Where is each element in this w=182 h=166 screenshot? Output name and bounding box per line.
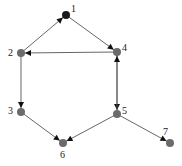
node-4 (113, 48, 121, 56)
node-label-1: 1 (71, 3, 76, 14)
node-2 (17, 49, 25, 57)
edge-4-2 (21, 52, 117, 53)
edges-layer (18, 15, 170, 143)
arrowhead-icon (107, 44, 114, 50)
node-label-2: 2 (8, 47, 13, 58)
node-3 (17, 108, 25, 116)
node-5 (113, 110, 121, 118)
node-label-4: 4 (122, 42, 127, 53)
node-label-7: 7 (163, 126, 168, 137)
node-label-6: 6 (60, 149, 65, 160)
labels-layer: 1234567 (8, 3, 168, 160)
node-6 (59, 139, 67, 147)
arrowhead-icon (53, 135, 60, 141)
node-label-3: 3 (8, 105, 13, 116)
arrowhead-icon (18, 102, 24, 108)
node-1 (62, 11, 70, 19)
node-label-5: 5 (122, 105, 127, 116)
arrowhead-icon (114, 56, 120, 62)
directed-graph: 1234567 (0, 0, 182, 166)
arrowhead-icon (25, 50, 31, 56)
node-7 (166, 139, 174, 147)
